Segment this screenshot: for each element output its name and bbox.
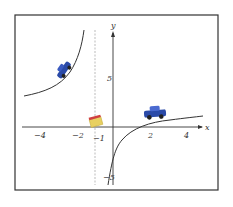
road-sign-icon: [89, 115, 103, 128]
asymptote-label: −1: [93, 134, 105, 143]
x-axis-label: x: [205, 123, 210, 132]
y-axis-arrow-icon: [111, 31, 115, 37]
x-axis-arrow-icon: [198, 125, 203, 129]
function-graph: x y −4 −2 2 4 −1 5 −5: [0, 0, 233, 207]
x-tick-neg4: −4: [34, 131, 46, 140]
right-branch-curve: [108, 116, 203, 185]
y-axis-label: y: [110, 21, 116, 30]
frame: [15, 15, 218, 190]
car-right-icon: [144, 105, 167, 120]
y-tick-5: 5: [107, 74, 112, 83]
x-tick-2: 2: [147, 131, 153, 140]
left-branch-curve: [24, 30, 84, 96]
x-tick-4: 4: [183, 131, 189, 140]
x-tick-neg2: −2: [72, 131, 84, 140]
car-left-icon: [54, 59, 73, 80]
